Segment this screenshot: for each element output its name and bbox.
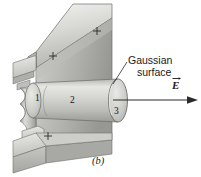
gaussian-surface-figure: Gaussian surface E 1 2 3 (b) [0, 0, 201, 177]
gaussian-cylinder [25, 79, 128, 122]
gaussian-surface-label-line2: surface [128, 66, 172, 78]
gaussian-surface-label: Gaussian surface [128, 54, 172, 78]
region-number-3: 3 [114, 106, 119, 116]
vector-arrow-icon [172, 76, 181, 81]
panel-label: (b) [92, 155, 104, 167]
field-arrow-head [187, 96, 198, 104]
conductor-illustration [0, 0, 201, 177]
region-number-1: 1 [35, 93, 40, 103]
electric-field-label: E [172, 79, 179, 92]
gaussian-surface-label-line1: Gaussian [128, 54, 172, 66]
cylinder-side-wall [33, 79, 118, 122]
region-number-2: 2 [70, 95, 75, 105]
